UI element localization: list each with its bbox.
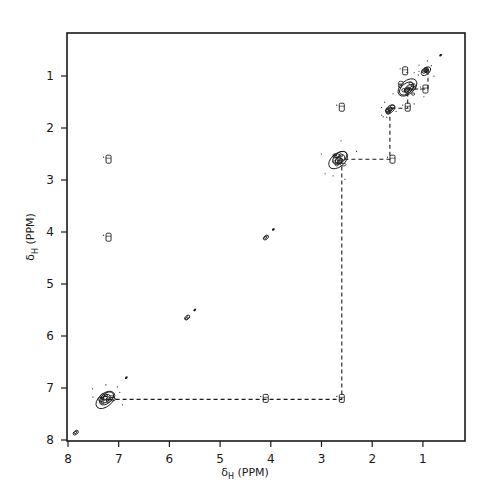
axis-ticks: 8765432112345678 [46,69,426,466]
y-tick-label: 1 [46,69,54,83]
plot-border [67,33,465,441]
x-axis-title-symbol: δ [221,466,228,479]
x-tick-label: 2 [368,452,376,466]
cross-peak [336,394,344,402]
x-tick-label: 4 [267,452,275,466]
contour-peaks [72,53,442,436]
diagonal-peak [418,60,435,77]
diagonal-peak [92,384,123,412]
y-tick-label: 7 [46,381,54,395]
diagonal-peak [72,429,79,436]
y-axis-title-unit: (PPM) [24,213,37,244]
diagonal-peak [381,102,397,118]
cross-peak [402,103,410,111]
x-tick-label: 6 [166,452,174,466]
diagonal-peak [321,140,357,180]
x-tick-label: 3 [318,452,326,466]
cross-peak [400,67,408,75]
y-axis-title: δH (PPM) [24,213,39,261]
x-tick-label: 1 [419,452,427,466]
x-axis-title-unit: (PPM) [237,466,268,479]
diagonal-peak [262,234,269,241]
x-axis-title: δH (PPM) [221,466,269,481]
diagonal-peak [184,314,191,321]
y-tick-label: 5 [46,277,54,291]
y-tick-label: 3 [46,173,54,187]
y-tick-label: 6 [46,329,54,343]
y-tick-label: 8 [46,433,54,447]
x-tick-label: 7 [115,452,123,466]
diagonal-peak [124,376,128,380]
diagonal-peak [193,308,197,312]
diagonal-peak [271,228,275,232]
y-tick-label: 2 [46,121,54,135]
y-axis-title-symbol: δ [24,254,37,261]
y-axis-title-subscript: H [31,248,40,254]
cross-peak [103,233,111,241]
diagonal-peak [439,53,443,57]
x-tick-label: 8 [64,452,72,466]
x-axis-title-subscript: H [228,472,234,481]
cross-peak [336,103,344,111]
x-tick-label: 5 [216,452,224,466]
plot-frame [67,33,465,441]
cross-peak [260,394,268,402]
cross-peak [103,155,111,163]
diagonal-peak [392,72,424,104]
y-tick-label: 4 [46,225,54,239]
cosy-plot: 8765432112345678 [0,0,487,503]
